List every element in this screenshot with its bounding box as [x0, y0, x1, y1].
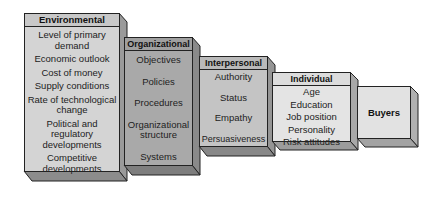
env-item-cost-of-money: Cost of money: [25, 68, 119, 79]
interpersonal-title: Interpersonal: [200, 57, 267, 70]
env-item-economic-outlook: Economic outlook: [25, 54, 119, 65]
env-item-technological-change: Rate of technological change: [25, 95, 119, 116]
ind-item-age: Age: [273, 87, 350, 98]
org-item-objectives: Objectives: [125, 55, 192, 66]
env-item-primary-demand: Level of primary demand: [25, 30, 119, 51]
env-item-competitive: Competitive developments: [25, 153, 119, 174]
individual-title: Individual: [273, 73, 350, 86]
org-item-procedures: Procedures: [125, 98, 192, 109]
ind-item-education: Education: [273, 100, 350, 111]
ind-item-personality: Personality: [273, 125, 350, 136]
org-item-policies: Policies: [125, 77, 192, 88]
ind-item-job-position: Job position: [273, 112, 350, 123]
organizational-title: Organizational: [125, 38, 192, 51]
org-item-structure: Organizational structure: [125, 120, 192, 141]
inter-item-empathy: Empathy: [200, 113, 267, 124]
env-item-supply-conditions: Supply conditions: [25, 81, 119, 92]
inter-item-status: Status: [200, 93, 267, 104]
ind-item-risk-attitudes: Risk attitudes: [273, 137, 350, 148]
buyers-title: Buyers: [368, 107, 400, 118]
inter-item-persuasiveness: Persuasiveness: [200, 134, 267, 145]
environmental-title: Environmental: [25, 14, 119, 27]
env-item-political-regulatory: Political and regulatory developments: [25, 119, 119, 151]
org-item-systems: Systems: [125, 152, 192, 163]
inter-item-authority: Authority: [200, 72, 267, 83]
